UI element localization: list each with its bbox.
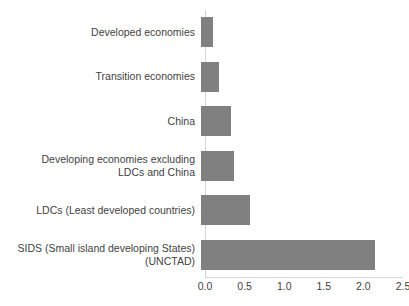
category-label: Transition economies — [0, 70, 200, 83]
category-label: China — [0, 115, 200, 128]
bar-track — [201, 233, 399, 278]
bar-china — [201, 106, 231, 136]
bar-row: Transition economies — [0, 55, 409, 100]
x-tick-label: 2.0 — [356, 280, 371, 292]
bar-chart: Developed economies Transition economies… — [0, 0, 409, 306]
bar-track — [201, 10, 399, 55]
bar-rows: Developed economies Transition economies… — [0, 10, 409, 277]
bar-row: Developing economies excluding LDCs and … — [0, 144, 409, 189]
category-label: LDCs (Least developed countries) — [0, 204, 200, 217]
bar-row: SIDS (Small island developing States) (U… — [0, 233, 409, 278]
bar-row: China — [0, 99, 409, 144]
bar-row: LDCs (Least developed countries) — [0, 188, 409, 233]
bar-sids — [201, 240, 375, 270]
bar-developed-economies — [201, 17, 213, 47]
bar-developing-economies-excluding-ldcs-and-china — [201, 151, 234, 181]
bar-track — [201, 55, 399, 100]
x-tick-label: 0.0 — [198, 280, 213, 292]
x-tick-label: 2.5 — [396, 280, 409, 292]
bar-track — [201, 99, 399, 144]
x-axis-line — [205, 277, 403, 278]
bar-ldcs — [201, 195, 250, 225]
category-label: Developing economies excluding LDCs and … — [0, 153, 200, 179]
x-tick-label: 1.5 — [316, 280, 331, 292]
bar-row: Developed economies — [0, 10, 409, 55]
bar-track — [201, 144, 399, 189]
bar-transition-economies — [201, 62, 219, 92]
x-tick-label: 0.5 — [237, 280, 252, 292]
x-tick-label: 1.0 — [277, 280, 292, 292]
category-label: Developed economies — [0, 26, 200, 39]
bar-track — [201, 188, 399, 233]
x-axis-tick-labels: 0.0 0.5 1.0 1.5 2.0 2.5 — [205, 280, 403, 298]
category-label: SIDS (Small island developing States) (U… — [0, 242, 200, 268]
